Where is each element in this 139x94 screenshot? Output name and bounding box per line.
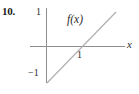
- x-axis-label: x: [127, 38, 132, 50]
- y-axis-top-tick-label: 1: [36, 6, 41, 17]
- y-axis-bottom-tick-label: −1: [28, 67, 39, 78]
- x-axis-tick-label: 1: [77, 49, 82, 60]
- function-label: f(x): [67, 13, 83, 25]
- figure-container: 10. 1 −1 1 f(x) x: [0, 0, 139, 94]
